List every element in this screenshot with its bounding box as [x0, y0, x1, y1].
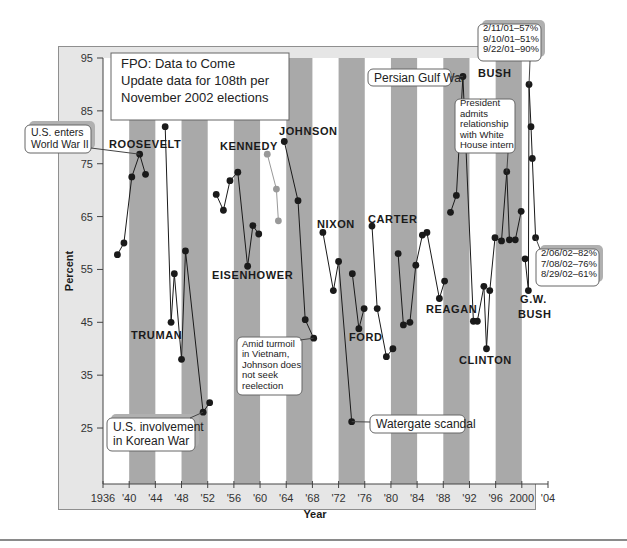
data-point — [383, 353, 390, 360]
callout-text: U.S. involvement — [113, 420, 204, 434]
president-label-truman: TRUMAN — [131, 329, 182, 341]
callout-text: not seek — [242, 369, 278, 380]
president-label-reagan: REAGAN — [426, 303, 477, 315]
data-point — [486, 287, 493, 294]
x-tick-label: '44 — [148, 492, 162, 504]
callout-text: Watergate scandal — [376, 417, 476, 431]
data-point — [474, 318, 481, 325]
data-point — [171, 270, 178, 277]
y-tick-label: 55 — [81, 263, 93, 275]
callout-fpo: FPO: Data to ComeUpdate data for 108th p… — [111, 53, 289, 120]
data-point — [483, 345, 490, 352]
data-point — [162, 123, 169, 130]
callout-korea: U.S. involvementin Korean War — [107, 412, 204, 451]
president-label-carter: CARTER — [368, 213, 417, 225]
x-tick-label: '56 — [227, 492, 241, 504]
data-point — [441, 278, 448, 285]
president-label-eisenhower: EISENHOWER — [212, 269, 293, 281]
data-point — [168, 319, 175, 326]
callout-text: relationship — [460, 118, 509, 129]
callout-gulf: Persian Gulf War — [368, 69, 465, 86]
data-point — [330, 287, 337, 294]
president-label-johnson: JOHNSON — [279, 125, 338, 137]
president-label-clinton: CLINTON — [459, 354, 512, 366]
callout-text: FPO: Data to Come — [121, 56, 235, 71]
callout-text: Persian Gulf War — [374, 71, 465, 85]
data-point — [302, 316, 309, 323]
y-tick-label: 65 — [81, 211, 93, 223]
y-axis-title: Percent — [63, 250, 75, 291]
data-point — [213, 191, 220, 198]
data-point — [128, 174, 135, 181]
callout-text: 2/11/01–57% — [483, 22, 539, 33]
data-point — [407, 319, 414, 326]
data-point — [206, 399, 213, 406]
callout-text: U.S. enters — [31, 126, 84, 138]
president-label-gwbush_2: BUSH — [518, 308, 552, 320]
callout-text: Amid turmoil — [242, 338, 295, 349]
data-point — [273, 186, 280, 193]
data-point — [412, 262, 419, 269]
y-tick-label: 45 — [81, 316, 93, 328]
approval-chart: 95857565554535251936'40'44'48'52'56'60'6… — [0, 0, 627, 548]
data-point — [436, 295, 443, 302]
president-label-nixon: NIXON — [317, 218, 355, 230]
x-tick-label: '40 — [122, 492, 136, 504]
x-tick-label: 1936 — [91, 492, 115, 504]
x-tick-label: 2000 — [510, 492, 534, 504]
data-point — [447, 209, 454, 216]
x-axis-title: Year — [303, 508, 327, 520]
x-tick-label: '68 — [305, 492, 319, 504]
callout-text: 9/22/01–90% — [483, 43, 540, 54]
data-point — [528, 123, 535, 130]
callout-text: in Korean War — [113, 434, 189, 448]
x-tick-label: '92 — [462, 492, 476, 504]
data-point — [492, 234, 499, 241]
callout-text: November 2002 elections — [121, 90, 269, 105]
president-label-roosevelt: ROOSEVELT — [109, 138, 181, 150]
callout-text: 9/10/01–51% — [483, 33, 540, 44]
data-point — [480, 283, 487, 290]
data-point — [518, 208, 525, 215]
data-point — [319, 229, 326, 236]
callout-text: 8/29/02–61% — [541, 268, 598, 279]
data-point — [529, 155, 536, 162]
data-point — [249, 222, 256, 229]
data-point — [424, 229, 431, 236]
callout-text: House intern — [460, 139, 514, 150]
data-point — [234, 169, 241, 176]
data-point — [220, 207, 227, 214]
data-point — [374, 305, 381, 312]
data-point — [361, 305, 368, 312]
bottom-rule — [0, 539, 627, 541]
callout-text: 2/06/02–82% — [541, 247, 598, 258]
data-point — [522, 255, 529, 262]
data-point — [281, 138, 288, 145]
data-point — [512, 236, 519, 243]
data-point — [506, 236, 513, 243]
x-tick-label: '60 — [253, 492, 267, 504]
callout-text: President — [460, 97, 500, 108]
x-tick-label: '72 — [331, 492, 345, 504]
callout-text: admits — [460, 108, 488, 119]
y-tick-label: 35 — [81, 369, 93, 381]
data-point — [349, 270, 356, 277]
callout-watergate: Watergate scandal — [352, 415, 476, 433]
data-point — [453, 192, 460, 199]
president-label-ford: FORD — [349, 331, 383, 343]
callout-text: World War II — [31, 138, 89, 150]
callout-text: Update data for 108th per — [121, 73, 270, 88]
president-label-kennedy: KENNEDY — [220, 140, 278, 152]
data-point — [295, 197, 302, 204]
data-point — [142, 171, 149, 178]
callout-text: in Vietnam, — [242, 348, 289, 359]
data-point — [182, 248, 189, 255]
y-tick-label: 75 — [81, 158, 93, 170]
callout-text: Johnson does — [242, 359, 301, 370]
x-tick-label: '76 — [358, 492, 372, 504]
x-tick-label: '64 — [279, 492, 293, 504]
callout-text: reelection — [242, 380, 283, 391]
callout-text: with White — [459, 129, 504, 140]
data-point — [178, 356, 185, 363]
data-point — [498, 237, 505, 244]
